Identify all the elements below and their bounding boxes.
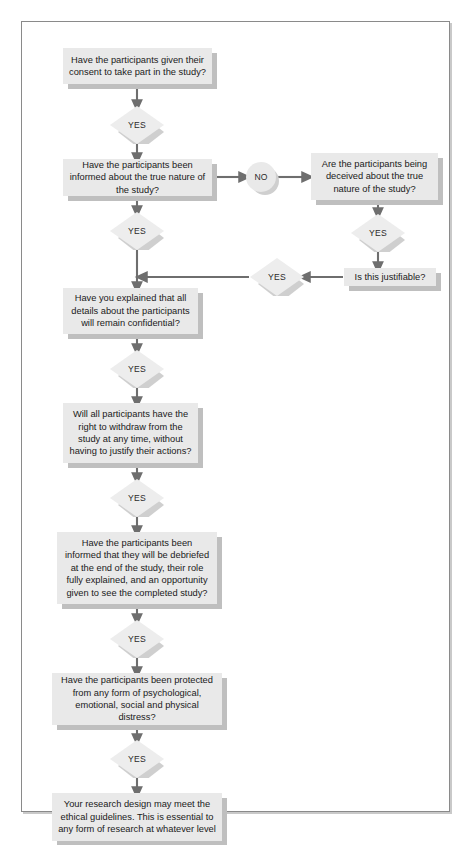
node-justifiable: Is this justifiable?: [344, 268, 436, 286]
node-protected: Have the participants been protected fro…: [52, 673, 222, 725]
node-debrief-label: Have the participants been informed that…: [63, 537, 211, 599]
node-consent-label: Have the participants given their consen…: [69, 54, 206, 79]
decision-yes-confidential-label: YES: [110, 350, 164, 388]
node-outcome-label: Your research design may meet the ethica…: [58, 798, 216, 835]
node-outcome: Your research design may meet the ethica…: [52, 793, 222, 841]
node-protected-label: Have the participants been protected fro…: [58, 674, 216, 724]
decision-yes-withdraw: YES: [110, 479, 164, 517]
decision-yes-deceived: YES: [351, 214, 405, 252]
node-deceived-label: Are the participants being deceived abou…: [317, 158, 432, 195]
node-debrief: Have the participants been informed that…: [57, 532, 217, 604]
decision-yes-informed-label: YES: [110, 212, 164, 250]
node-deceived: Are the participants being deceived abou…: [311, 153, 438, 200]
decision-yes-deceived-label: YES: [351, 214, 405, 252]
decision-yes-consent: YES: [110, 106, 164, 144]
diagram-canvas: Have the participants given their consen…: [0, 0, 472, 845]
decision-yes-protected-label: YES: [110, 740, 164, 778]
connector-no-label: NO: [246, 162, 276, 192]
decision-yes-debrief-label: YES: [110, 620, 164, 658]
node-withdraw: Will all participants have the right to …: [63, 403, 198, 463]
node-consent: Have the participants given their consen…: [63, 48, 212, 84]
decision-yes-justifiable-label: YES: [250, 258, 304, 296]
decision-yes-confidential: YES: [110, 350, 164, 388]
connector-no: NO: [246, 162, 276, 192]
node-confidential: Have you explained that all details abou…: [63, 288, 198, 334]
decision-yes-debrief: YES: [110, 620, 164, 658]
decision-yes-consent-label: YES: [110, 106, 164, 144]
node-informed: Have the participants been informed abou…: [63, 159, 212, 196]
node-confidential-label: Have you explained that all details abou…: [69, 292, 192, 329]
decision-yes-justifiable: YES: [250, 258, 304, 296]
decision-yes-protected: YES: [110, 740, 164, 778]
decision-yes-informed: YES: [110, 212, 164, 250]
node-justifiable-label: Is this justifiable?: [355, 271, 426, 283]
decision-yes-withdraw-label: YES: [110, 479, 164, 517]
node-informed-label: Have the participants been informed abou…: [69, 159, 206, 196]
node-withdraw-label: Will all participants have the right to …: [69, 408, 192, 458]
